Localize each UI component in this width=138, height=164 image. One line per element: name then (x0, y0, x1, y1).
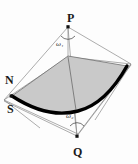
figure-container: P Q N S ω₁ ω₂ (0, 0, 138, 164)
vertex-label-s: S (7, 103, 14, 115)
angle-arc-omega2 (70, 123, 84, 126)
angle-label-omega1: ω₁ (56, 41, 63, 48)
vertex-label-n: N (5, 74, 14, 86)
apex-marker-q (75, 135, 78, 138)
angle-label-omega2: ω₂ (66, 113, 73, 120)
equator-marker-left (10, 94, 13, 97)
curved-surface-group (12, 56, 127, 113)
vertex-label-q: Q (73, 146, 82, 158)
vertex-label-p: P (67, 12, 74, 24)
apex-marker-p (66, 25, 69, 28)
